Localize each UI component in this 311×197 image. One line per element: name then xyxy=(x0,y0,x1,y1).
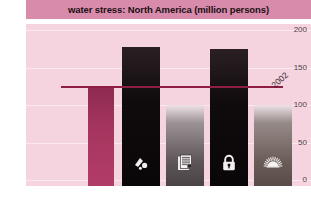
page-title: water stress: North America (million per… xyxy=(68,4,269,15)
title-left-spacer xyxy=(0,0,27,19)
bar-3 xyxy=(166,105,204,186)
plot-area: 2002 xyxy=(26,24,311,186)
y-tick-label-100: 100 xyxy=(294,101,307,109)
y-axis-gutter xyxy=(0,19,26,197)
bottom-spacer xyxy=(0,186,311,197)
reference-line-2002 xyxy=(61,86,283,88)
bar-4 xyxy=(210,49,248,186)
bar-5 xyxy=(254,105,292,186)
gridline-150 xyxy=(26,68,311,69)
chart-root: water stress: North America (million per… xyxy=(0,0,311,197)
water-drop-icon xyxy=(130,152,152,174)
padlock-icon xyxy=(218,152,240,174)
document-icon xyxy=(174,152,196,174)
bar-2 xyxy=(122,47,160,187)
bar-1 xyxy=(88,86,114,186)
sunburst-icon xyxy=(262,152,284,174)
chart-title-band: water stress: North America (million per… xyxy=(26,0,311,19)
y-tick-label-150: 150 xyxy=(294,64,307,72)
gridline-200 xyxy=(26,30,311,31)
y-tick-label-50: 50 xyxy=(298,139,307,147)
y-tick-label-0: 0 xyxy=(303,176,307,184)
y-tick-label-200: 200 xyxy=(294,26,307,34)
